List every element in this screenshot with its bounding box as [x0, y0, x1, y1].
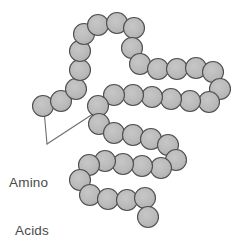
amino-acid-bead: [124, 18, 145, 39]
amino-acid-bead: [104, 123, 125, 144]
amino-acid-chain-diagram: Amino Acids: [0, 0, 239, 241]
amino-acids-label-line-2: Acids: [9, 223, 87, 239]
amino-acid-bead: [167, 59, 188, 80]
amino-acid-bead: [123, 85, 144, 106]
amino-acid-bead: [148, 59, 169, 80]
amino-acid-bead: [98, 189, 119, 210]
amino-acid-bead: [132, 156, 153, 177]
amino-acid-bead: [142, 87, 163, 108]
amino-acid-bead: [123, 125, 144, 146]
amino-acids-label-line-1: Amino: [9, 175, 87, 191]
amino-acid-bead: [70, 60, 91, 81]
amino-acid-bead: [88, 15, 109, 36]
amino-acid-bead: [66, 79, 87, 100]
amino-acids-label: Amino Acids: [9, 143, 87, 241]
amino-acid-bead: [135, 188, 156, 209]
amino-acid-bead: [199, 92, 220, 113]
amino-acid-bead: [161, 89, 182, 110]
amino-acid-bead: [151, 158, 172, 179]
amino-acid-bead: [180, 91, 201, 112]
amino-acid-bead: [138, 207, 159, 228]
amino-acid-bead: [113, 154, 134, 175]
